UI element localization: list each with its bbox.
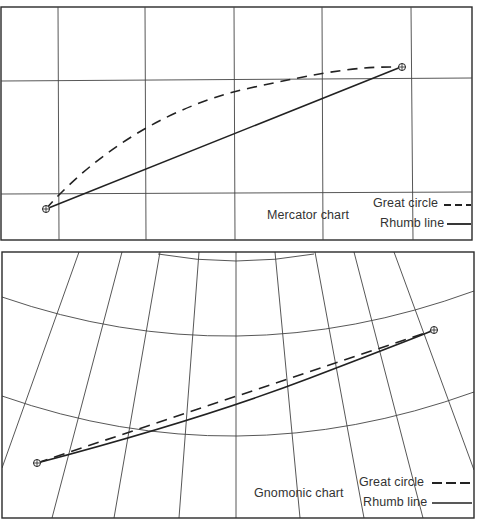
gnomonic-end-point-icon (431, 327, 438, 334)
mercator-chart-graphic (0, 0, 478, 248)
gnomonic-chart-panel: Great circle Rhumb line Gnomonic chart (0, 248, 478, 521)
mercator-parallels (1, 78, 472, 194)
mercator-end-point-icon (399, 64, 406, 71)
mercator-legend-great-circle: Great circle (373, 196, 438, 210)
mercator-rhumb-line (46, 67, 401, 209)
mercator-start-point-icon (43, 206, 50, 213)
gnomonic-parallels (2, 254, 474, 436)
gnomonic-legend-great-circle: Great circle (359, 475, 424, 489)
mercator-chart-title: Mercator chart (267, 208, 349, 222)
mercator-meridians (58, 7, 413, 240)
gnomonic-legend-rhumb-line: Rhumb line (363, 495, 427, 509)
gnomonic-chart-title: Gnomonic chart (254, 486, 344, 500)
mercator-chart-panel: Great circle Rhumb line Mercator chart (0, 0, 478, 248)
gnomonic-start-point-icon (34, 460, 41, 467)
mercator-legend-rhumb-line: Rhumb line (380, 216, 444, 230)
